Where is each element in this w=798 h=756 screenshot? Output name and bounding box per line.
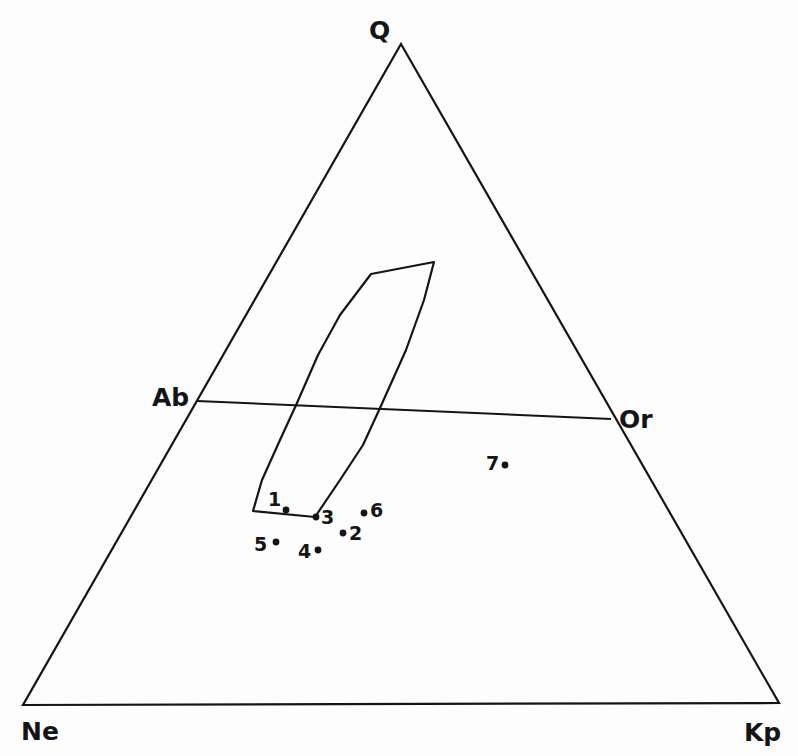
data-point-label: 6 bbox=[370, 499, 383, 521]
data-point-marker bbox=[313, 514, 320, 521]
data-point-label: 2 bbox=[349, 522, 362, 544]
ab-or-tie-line bbox=[197, 401, 611, 419]
vertex-label-ne: Ne bbox=[21, 717, 59, 746]
tie-label-or: Or bbox=[619, 405, 653, 434]
tie-label-ab: Ab bbox=[152, 383, 189, 412]
sample-point-5: 5 bbox=[254, 533, 279, 555]
data-point-marker bbox=[502, 462, 509, 469]
data-point-marker bbox=[315, 547, 322, 554]
compositional-field-outline bbox=[253, 262, 434, 517]
vertex-label-kp: Kp bbox=[744, 718, 781, 747]
data-point-label: 3 bbox=[321, 506, 334, 528]
data-point-label: 7 bbox=[486, 452, 499, 474]
data-point-label: 1 bbox=[268, 488, 281, 510]
sample-point-1: 1 bbox=[268, 488, 289, 513]
data-point-marker bbox=[361, 510, 368, 517]
data-point-marker bbox=[283, 507, 290, 514]
sample-point-3: 3 bbox=[313, 506, 335, 528]
data-point-marker bbox=[340, 530, 347, 537]
vertex-label-q: Q bbox=[369, 16, 390, 45]
data-point-label: 4 bbox=[298, 540, 311, 562]
ternary-triangle bbox=[23, 44, 779, 705]
sample-point-4: 4 bbox=[298, 540, 321, 562]
sample-point-6: 6 bbox=[361, 499, 384, 521]
ternary-diagram: Q Ab Or Ne Kp 1234567 bbox=[0, 0, 798, 756]
data-point-marker bbox=[273, 539, 280, 546]
data-point-label: 5 bbox=[254, 533, 267, 555]
sample-point-7: 7 bbox=[486, 452, 508, 474]
sample-point-2: 2 bbox=[340, 522, 363, 544]
sample-points: 1234567 bbox=[254, 452, 508, 562]
